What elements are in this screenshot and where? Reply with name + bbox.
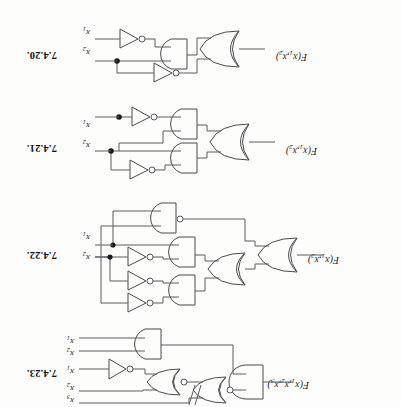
wire-or-in-and2-7-4-21 [197, 125, 221, 131]
not1-triangle-7-4-20 [154, 63, 172, 82]
crossing-mark-b-7-4-23 [189, 385, 195, 405]
not3-triangle-7-4-22 [128, 247, 146, 266]
not3-bubble-7-4-22 [147, 254, 153, 260]
circuit-svg-7-4-22 [0, 193, 401, 315]
wire-nor1-in-x3-7-4-23 [79, 398, 203, 403]
or-main-left-7-4-21 [241, 124, 250, 160]
wire-not1-to-x2-7-4-22 [101, 257, 128, 303]
not1-triangle-7-4-21 [130, 160, 148, 179]
or-main-7-4-20 [200, 31, 239, 67]
not1-bubble-7-4-21 [149, 167, 155, 173]
nand-bubble-7-4-22 [177, 216, 183, 222]
not2-triangle-7-4-21 [132, 107, 150, 126]
wire-not2-to-x2-7-4-22 [110, 257, 128, 281]
not2-bubble-7-4-22 [147, 278, 153, 284]
or-main-left-7-4-22 [289, 238, 298, 272]
junction-dot-x2-7-4-22 [107, 254, 112, 259]
wire-ormain-in-bot-7-4-22 [245, 241, 269, 246]
circuit-svg-7-4-20 [0, 0, 401, 87]
wire-or-in-and-7-4-20 [187, 38, 211, 55]
nor1-body-7-4-23 [193, 377, 226, 403]
not2-bubble-7-4-21 [151, 114, 157, 120]
nor2-body-7-4-23 [147, 369, 180, 395]
not2-triangle-7-4-22 [128, 271, 146, 290]
not-bubble-7-4-23 [127, 366, 133, 372]
not1-triangle-7-4-22 [128, 293, 146, 312]
and-gate-1-7-4-22 [169, 275, 195, 305]
wire-ormain-to-nand-7-4-22 [183, 219, 245, 241]
and-gate-main-7-4-23 [229, 365, 263, 399]
nor2-bubble-7-4-23 [181, 379, 187, 385]
wire-and1-in-not2-7-4-22 [153, 281, 179, 283]
and-gate-1-7-4-21 [171, 143, 197, 173]
nor1-bubble-7-4-23 [227, 387, 233, 393]
wire-or-in-and1-7-4-21 [197, 152, 221, 158]
or-second-left-7-4-22 [237, 253, 246, 285]
circuit-svg-7-4-21 [0, 90, 401, 185]
or-second-7-4-22 [208, 253, 245, 285]
nor1-body-left-7-4-23 [219, 377, 227, 403]
not2-triangle-7-4-20 [120, 29, 138, 48]
nand-body-7-4-22 [151, 203, 176, 233]
wire-nand-in-top-7-4-22 [101, 226, 161, 257]
or-main-left-7-4-20 [231, 31, 240, 67]
not1-bubble-7-4-22 [147, 300, 153, 306]
and-gate-2-7-4-21 [171, 109, 197, 139]
wire-and2-in-x2-7-4-21 [119, 131, 181, 151]
circuit-svg-7-4-23 [0, 317, 401, 407]
wire-or2-in-and1-7-4-22 [195, 278, 219, 291]
and-gate-2-7-4-22 [169, 237, 195, 267]
wire-and1-in-not1-7-4-21 [155, 165, 181, 170]
or-main-7-4-21 [210, 124, 249, 160]
wire-and2-in-not3-7-4-22 [153, 257, 179, 259]
wire-nor2-in-x2-7-4-23 [79, 390, 157, 391]
wire-nor2-in-not-7-4-23 [133, 369, 157, 374]
not1-bubble-7-4-20 [173, 70, 179, 76]
not-triangle-7-4-23 [109, 359, 126, 379]
figure-7-4-20: 7.4.20. F(x1,x2) x2 x1 [0, 0, 401, 87]
scanned-page: 7.4.23. F(x1,x2,x3) x3 x2 x1 x2 x1 [0, 0, 401, 407]
wire-ormain-in-top-7-4-22 [245, 264, 269, 269]
figure-7-4-21: 7.4.21. F(x1,x2) x2 x1 [0, 90, 401, 185]
nor2-body-left-7-4-23 [173, 369, 181, 395]
wire-not1-to-x2-7-4-21 [111, 151, 130, 170]
or-main-7-4-22 [258, 238, 297, 272]
wire-and-in-not2-7-4-20 [145, 39, 171, 47]
not2-bubble-7-4-20 [139, 36, 145, 42]
wire-not1-to-x2-7-4-20 [117, 61, 154, 73]
and-gate-lower-7-4-23 [135, 329, 161, 359]
crossing-mark-a-7-4-23 [195, 385, 201, 405]
figure-7-4-22: 7.4.22. F(x1,x2) x2 x1 [0, 193, 401, 315]
wire-and1-in-not1-7-4-22 [153, 297, 179, 303]
figure-7-4-23: 7.4.23. F(x1,x2,x3) x3 x2 x1 x2 x1 [0, 317, 401, 407]
and-gate-7-4-20 [161, 39, 187, 69]
wire-or-in-not-7-4-20 [179, 59, 211, 73]
